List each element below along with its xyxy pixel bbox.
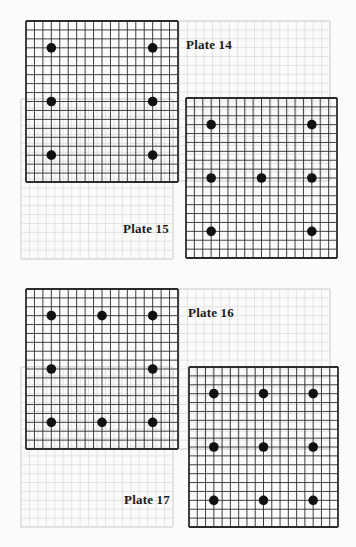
plate-14-label: Plate 14 [186, 37, 232, 53]
plate-17-label: Plate 17 [124, 492, 170, 508]
go-grid [185, 97, 338, 259]
black-stone [209, 442, 219, 452]
go-grid [25, 20, 179, 183]
black-stone [308, 442, 318, 452]
black-stone [259, 389, 269, 399]
go-grid [25, 288, 179, 450]
black-stone [148, 311, 158, 321]
black-stone [206, 120, 216, 130]
black-stone [148, 150, 158, 160]
black-stone [47, 418, 57, 428]
black-stone [148, 97, 158, 107]
black-stone [148, 418, 158, 428]
black-stone [209, 389, 219, 399]
plate-16-label: Plate 16 [188, 305, 234, 321]
go-grid [188, 366, 339, 528]
black-stone [307, 227, 317, 237]
black-stone [47, 43, 57, 53]
plate-15-label: Plate 15 [123, 221, 169, 237]
black-stone [209, 496, 219, 506]
black-stone [47, 364, 57, 374]
black-stone [97, 311, 107, 321]
go-board-plate-16 [25, 288, 179, 450]
go-board-plate-14 [25, 20, 179, 183]
black-stone [148, 364, 158, 374]
black-stone [47, 97, 57, 107]
black-stone [148, 43, 158, 53]
black-stone [259, 442, 269, 452]
black-stone [259, 496, 269, 506]
black-stone [307, 173, 317, 183]
go-board-plate-15 [185, 97, 338, 259]
black-stone [47, 150, 57, 160]
black-stone [307, 120, 317, 130]
black-stone [206, 227, 216, 237]
black-stone [47, 311, 57, 321]
black-stone [206, 173, 216, 183]
go-board-plate-17 [188, 366, 339, 528]
black-stone [308, 496, 318, 506]
black-stone [97, 418, 107, 428]
black-stone [257, 173, 267, 183]
black-stone [308, 389, 318, 399]
